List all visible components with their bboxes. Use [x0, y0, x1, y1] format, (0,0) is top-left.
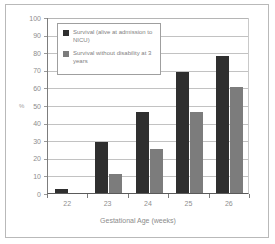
- y-tick-label: 100: [21, 15, 41, 22]
- x-tick-mark: [128, 194, 129, 198]
- y-tick-label: 10: [21, 173, 41, 180]
- x-tick-label: 26: [209, 200, 249, 208]
- x-tick-mark: [209, 194, 210, 198]
- y-tick-label: 70: [21, 67, 41, 74]
- legend-item: Survival without disability at 3 years: [63, 50, 156, 65]
- legend-swatch-icon: [63, 51, 69, 57]
- x-tick-mark: [249, 194, 250, 198]
- x-tick-label: 25: [168, 200, 208, 208]
- x-tick-mark: [168, 194, 169, 198]
- x-tick-label: 23: [88, 200, 128, 208]
- bar: [136, 112, 149, 193]
- y-tick-label: 80: [21, 50, 41, 57]
- bar-chart: % 0102030405060708090100 2223242526 Gest…: [6, 5, 270, 239]
- y-tick-label: 30: [21, 138, 41, 145]
- y-tick-label: 60: [21, 85, 41, 92]
- y-tick-label: 40: [21, 120, 41, 127]
- chart-legend: Survival (alive at admission to NICU) Su…: [57, 23, 161, 75]
- x-tick-label: 24: [128, 200, 168, 208]
- y-tick-label: 20: [21, 155, 41, 162]
- bar: [216, 56, 229, 193]
- bar: [190, 112, 203, 193]
- figure-frame: % 0102030405060708090100 2223242526 Gest…: [5, 4, 269, 238]
- x-axis-title: Gestational Age (weeks): [6, 217, 270, 224]
- bar: [109, 174, 122, 193]
- legend-swatch-icon: [63, 30, 69, 36]
- gridline: [48, 18, 248, 19]
- legend-label: Survival (alive at admission to NICU): [73, 29, 156, 44]
- bar: [95, 142, 108, 193]
- legend-label: Survival without disability at 3 years: [73, 50, 156, 65]
- y-tick-label: 0: [21, 191, 41, 198]
- y-tick-label: 50: [21, 103, 41, 110]
- bar: [176, 72, 189, 193]
- bar: [55, 189, 68, 193]
- bar: [150, 149, 163, 193]
- bar: [230, 87, 243, 193]
- legend-item: Survival (alive at admission to NICU): [63, 29, 156, 44]
- x-tick-label: 22: [47, 200, 87, 208]
- y-tick-label: 90: [21, 32, 41, 39]
- x-tick-mark: [47, 194, 48, 198]
- x-tick-mark: [87, 194, 88, 198]
